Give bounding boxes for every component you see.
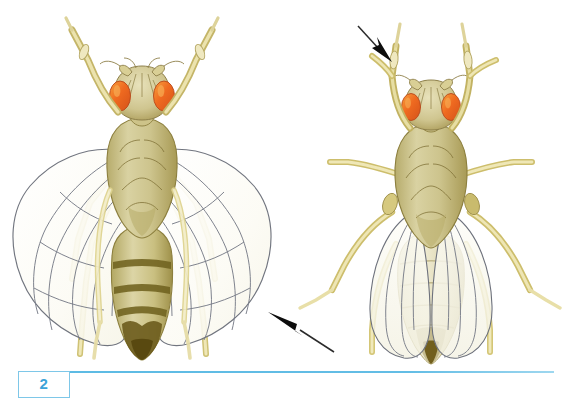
figure-plate: 2 bbox=[0, 0, 562, 410]
caption-rule bbox=[70, 371, 554, 373]
figure-number: 2 bbox=[18, 371, 70, 398]
left-fly bbox=[13, 18, 271, 360]
right-fly bbox=[300, 24, 560, 364]
illustration-canvas bbox=[0, 0, 562, 410]
caption-bar: 2 bbox=[18, 371, 554, 399]
arrow-pointing-to-wing bbox=[268, 312, 334, 352]
